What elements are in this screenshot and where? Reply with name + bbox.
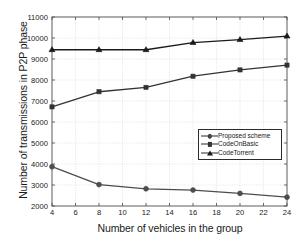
x-tick-label: 16 <box>189 208 197 217</box>
legend-marker-sample <box>201 149 218 157</box>
grid-lines <box>52 17 287 206</box>
data-point-marker <box>97 182 102 187</box>
data-point-marker <box>144 186 149 191</box>
data-point-marker <box>144 85 148 89</box>
x-tick-label: 4 <box>50 208 54 217</box>
legend-item[interactable]: Proposed scheme <box>201 132 278 140</box>
legend-triangle-icon <box>207 150 213 155</box>
legend-marker-sample <box>201 132 218 140</box>
x-tick-label: 18 <box>212 208 220 217</box>
legend-label: CodeOnBasic <box>218 140 258 148</box>
data-point-marker <box>238 68 242 72</box>
legend-item[interactable]: CodeOnBasic <box>201 140 278 148</box>
data-point-marker <box>50 164 55 169</box>
data-point-marker <box>285 195 290 200</box>
data-series <box>50 164 290 199</box>
data-point-marker <box>191 74 195 78</box>
x-tick-label: 20 <box>236 208 244 217</box>
x-tick-label: 12 <box>142 208 150 217</box>
x-tick-label: 22 <box>259 208 267 217</box>
plot-area <box>0 0 302 242</box>
data-point-marker <box>285 63 289 67</box>
x-tick-label: 6 <box>73 208 77 217</box>
chart-legend: Proposed schemeCodeOnBasicCodeTorrent <box>198 129 282 160</box>
data-point-marker <box>238 191 243 196</box>
legend-label: Proposed scheme <box>218 132 270 140</box>
data-point-marker <box>284 33 290 38</box>
x-tick-label: 10 <box>118 208 126 217</box>
x-tick-label: 24 <box>283 208 291 217</box>
legend-marker-sample <box>201 140 218 148</box>
x-tick-label: 14 <box>165 208 173 217</box>
legend-square-icon <box>207 142 211 146</box>
data-point-marker <box>97 90 101 94</box>
chart-figure: Number of transmissions in P2P phase 200… <box>0 0 302 242</box>
legend-label: CodeTorrent <box>218 149 254 157</box>
legend-circle-icon <box>207 134 211 138</box>
data-point-marker <box>50 105 54 109</box>
x-tick-label: 8 <box>97 208 101 217</box>
data-point-marker <box>191 188 196 193</box>
legend-item[interactable]: CodeTorrent <box>201 149 278 157</box>
